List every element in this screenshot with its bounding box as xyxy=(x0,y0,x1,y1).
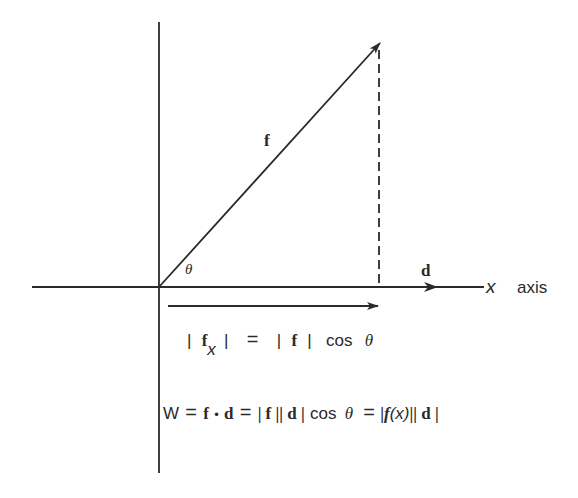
angle-label-theta: θ xyxy=(185,262,192,277)
eq-equals: = xyxy=(240,402,252,422)
eq-equals: = xyxy=(185,402,197,422)
abs-bar: | xyxy=(307,332,311,349)
eq-dot: • xyxy=(214,408,219,421)
eq-f: f xyxy=(291,332,297,349)
eq-abs-d: | d | xyxy=(279,405,304,422)
work-diagram-canvas xyxy=(0,0,578,498)
eq-theta: θ xyxy=(345,405,353,422)
eq-equals: = xyxy=(363,402,375,422)
eq-fx-arg: (x) xyxy=(390,405,410,422)
eq-abs-d2: | d | xyxy=(413,405,438,422)
eq-abs-f: | f | xyxy=(258,405,280,422)
force-vector-f xyxy=(159,43,380,287)
eq-cos: cos xyxy=(310,405,336,422)
eq-work-W: W xyxy=(163,405,179,422)
abs-bar: | xyxy=(224,332,228,349)
force-label-f: f xyxy=(264,132,270,149)
eq-equals: = xyxy=(247,329,259,349)
displacement-label-d: d xyxy=(421,262,430,279)
x-axis-variable-label: x xyxy=(486,277,496,296)
abs-bar: | xyxy=(187,332,191,349)
eq-theta: θ xyxy=(365,332,373,349)
eq-d: d xyxy=(224,405,233,422)
abs-bar: | xyxy=(277,332,281,349)
work-equation: W = f • d = | f | | d | cos θ = | f(x) |… xyxy=(163,402,439,422)
projection-equation: | fx | = | f | cos θ xyxy=(187,329,373,349)
eq-cos: cos xyxy=(326,332,352,349)
eq-subscript-x: x xyxy=(207,341,216,358)
eq-f: f xyxy=(203,405,209,422)
x-axis-word-label: axis xyxy=(517,279,547,296)
